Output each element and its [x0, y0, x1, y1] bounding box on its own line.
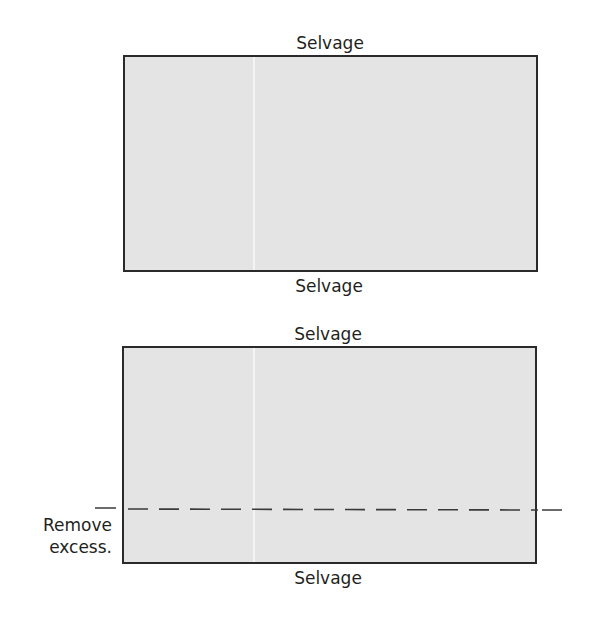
remove-excess-line2: excess. — [26, 536, 112, 558]
selvage-label-bottom-2: Selvage — [294, 568, 362, 588]
remove-excess-label: Remove excess. — [26, 514, 112, 558]
remove-excess-line1: Remove — [26, 514, 112, 536]
